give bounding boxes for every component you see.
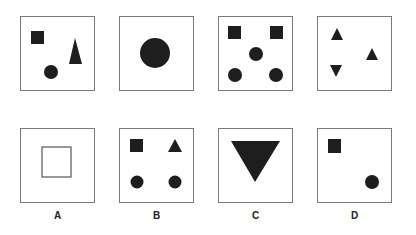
option-a-label: A — [20, 210, 95, 221]
triangle-icon — [69, 38, 82, 64]
circle-icon — [169, 176, 182, 189]
circle-icon — [140, 38, 170, 68]
circle-icon — [131, 176, 144, 189]
circle-icon — [228, 68, 242, 82]
option-d-panel[interactable] — [317, 128, 392, 203]
circle-icon — [269, 68, 283, 82]
square-icon — [270, 26, 283, 39]
square-icon — [228, 26, 241, 39]
seq-1-panel — [20, 16, 95, 91]
seq-2-panel — [119, 16, 194, 91]
circle-icon — [44, 65, 58, 79]
option-c-label: C — [218, 210, 293, 221]
option-b-panel[interactable] — [119, 128, 194, 203]
option-d-label: D — [317, 210, 392, 221]
triangle-icon — [330, 65, 342, 77]
circle-icon — [365, 175, 379, 189]
option-c-panel[interactable] — [218, 128, 293, 203]
seq-3-panel — [218, 16, 293, 91]
hollow-square-icon — [42, 147, 71, 177]
square-icon — [328, 139, 341, 153]
option-a-panel[interactable] — [20, 128, 95, 203]
triangle-icon — [231, 141, 280, 182]
seq-4-panel — [317, 16, 392, 91]
square-icon — [31, 31, 44, 44]
circle-icon — [249, 47, 263, 61]
triangle-icon — [366, 48, 378, 60]
triangle-icon — [331, 28, 343, 40]
triangle-icon — [168, 139, 182, 152]
square-icon — [130, 139, 143, 152]
option-b-label: B — [119, 210, 194, 221]
